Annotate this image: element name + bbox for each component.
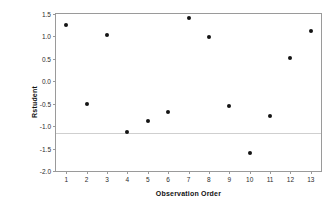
x-axis-tick-label: 1	[64, 176, 68, 183]
data-point	[207, 35, 211, 39]
x-axis-tick-label: 12	[287, 176, 294, 183]
y-axis-tick-label: 0.5	[42, 55, 51, 62]
y-axis-tick	[53, 104, 56, 105]
data-point	[288, 56, 292, 60]
y-axis-tick-label: -1.5	[40, 145, 51, 152]
x-axis-tick	[66, 171, 67, 174]
y-axis-tick	[53, 149, 56, 150]
y-axis-tick	[53, 36, 56, 37]
x-axis-tick	[87, 171, 88, 174]
x-axis-tick-label: 10	[246, 176, 253, 183]
data-point	[227, 104, 231, 108]
y-axis-tick-label: -1.0	[40, 123, 51, 130]
data-point	[248, 151, 252, 155]
y-axis-tick-label: -0.5	[40, 100, 51, 107]
x-axis-tick-label: 11	[267, 176, 274, 183]
x-axis-tick-label: 13	[307, 176, 314, 183]
x-axis-tick	[189, 171, 190, 174]
x-axis-tick	[209, 171, 210, 174]
x-axis-tick	[148, 171, 149, 174]
data-point	[105, 33, 109, 37]
data-point	[166, 110, 170, 114]
x-axis-tick-label: 6	[166, 176, 170, 183]
y-axis-tick	[53, 126, 56, 127]
data-point	[146, 119, 150, 123]
y-axis-tick	[53, 81, 56, 82]
x-axis-tick	[168, 171, 169, 174]
y-axis-title: Rstudent	[31, 86, 38, 118]
x-axis-title: Observation Order	[55, 190, 322, 197]
data-point	[85, 102, 89, 106]
x-axis-tick	[229, 171, 230, 174]
x-axis-tick-label: 8	[207, 176, 211, 183]
x-axis-tick	[311, 171, 312, 174]
data-point	[268, 114, 272, 118]
x-axis-tick	[290, 171, 291, 174]
y-axis-tick-label: -2.0	[40, 168, 51, 175]
reference-line	[56, 133, 321, 134]
x-axis-tick-label: 3	[105, 176, 109, 183]
y-axis-tick-label: 1.5	[42, 11, 51, 18]
y-axis-tick-label: 0.0	[42, 78, 51, 85]
x-axis-tick	[270, 171, 271, 174]
x-axis-tick	[250, 171, 251, 174]
data-point	[64, 23, 68, 27]
x-axis-tick-label: 5	[146, 176, 150, 183]
y-axis-tick	[53, 171, 56, 172]
x-axis-tick-label: 4	[126, 176, 130, 183]
data-point	[187, 16, 191, 20]
data-point	[125, 130, 129, 134]
plot-area: 1.51.00.50.0-0.5-1.0-1.5-2.0123456789101…	[55, 13, 322, 172]
x-axis-tick-label: 2	[85, 176, 89, 183]
x-axis-tick	[107, 171, 108, 174]
x-axis-tick	[127, 171, 128, 174]
x-axis-tick-label: 7	[187, 176, 191, 183]
x-axis-tick-label: 9	[227, 176, 231, 183]
scatter-plot-figure: 1.51.00.50.0-0.5-1.0-1.5-2.0123456789101…	[0, 0, 333, 204]
y-axis-tick	[53, 14, 56, 15]
data-point	[309, 29, 313, 33]
y-axis-tick	[53, 59, 56, 60]
y-axis-tick-label: 1.0	[42, 33, 51, 40]
